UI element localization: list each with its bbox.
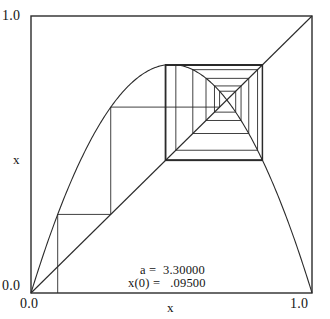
identity-diagonal-line (31, 16, 312, 293)
y-axis-tick-bottom: 0.0 (2, 278, 20, 294)
map-curve-group (31, 64, 312, 293)
cobweb-orbit-path (58, 65, 263, 293)
initial-condition-annotation: x(0) = .09500 (128, 276, 206, 291)
y-axis-tick-top: 1.0 (2, 8, 20, 24)
y-axis-title: x (13, 152, 20, 168)
logistic-map-curve (31, 64, 312, 293)
cobweb-orbit-group (58, 65, 263, 293)
x-axis-tick-right: 1.0 (290, 296, 308, 312)
cobweb-figure: 1.0 0.0 0.0 1.0 x x a = 3.30000 x(0) = .… (0, 0, 330, 319)
identity-line-group (31, 16, 312, 293)
x-axis-title: x (167, 300, 174, 316)
x-axis-tick-left: 0.0 (20, 296, 38, 312)
